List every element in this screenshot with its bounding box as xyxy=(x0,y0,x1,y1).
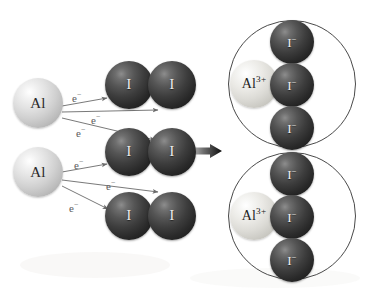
iodine-atom-1-2-label: I xyxy=(170,78,175,92)
iodine-atom-1-1: I xyxy=(105,61,153,109)
electron-label-4: e− xyxy=(74,160,83,171)
iodide-ion-2-1: I− xyxy=(270,152,314,196)
electron-charge-5: − xyxy=(111,178,115,187)
iodine-atom-2-1-label: I xyxy=(127,145,132,159)
iodide-ion-1-2-charge: − xyxy=(292,76,297,86)
aluminum-atom-2-label: Al xyxy=(30,165,45,180)
aluminum-ion-1-charge: 3+ xyxy=(256,74,266,84)
reaction-diagram: AlAl IIIIII e−e−e−e−e−e− Al3+I−I−I−Al3+I… xyxy=(0,0,379,292)
iodide-ion-1-1-label: I− xyxy=(287,36,297,49)
iodine-atom-2-2: I xyxy=(148,128,196,176)
iodide-ion-2-3-charge: − xyxy=(292,251,297,261)
iodide-ion-2-2-label: I− xyxy=(287,211,297,224)
iodide-ion-1-2: I− xyxy=(270,63,314,107)
iodide-ion-2-1-label: I− xyxy=(287,168,297,181)
electron-arrow-1 xyxy=(62,98,107,106)
iodide-ion-2-3-label: I− xyxy=(287,254,297,267)
electron-charge-4: − xyxy=(79,157,83,166)
iodide-ion-2-3: I− xyxy=(270,238,314,282)
electron-charge-1: − xyxy=(77,90,81,99)
electron-arrow-2 xyxy=(62,110,158,112)
electron-charge-6: − xyxy=(74,200,78,209)
iodine-atom-2-1: I xyxy=(105,128,153,176)
aluminum-ion-1-label: Al3+ xyxy=(242,77,267,91)
iodine-atom-2-2-label: I xyxy=(170,145,175,159)
iodine-atom-1-1-label: I xyxy=(127,78,132,92)
iodine-atom-3-1: I xyxy=(105,192,153,240)
electron-label-5: e− xyxy=(106,181,115,192)
iodine-atom-3-2-label: I xyxy=(170,209,175,223)
aluminum-ion-2-label: Al3+ xyxy=(242,209,267,223)
iodine-atom-3-1-label: I xyxy=(127,209,132,223)
iodide-ion-2-2-charge: − xyxy=(292,208,297,218)
iodine-atom-1-2: I xyxy=(148,61,196,109)
aluminum-atom-1: Al xyxy=(13,78,63,128)
electron-label-6: e− xyxy=(69,203,78,214)
aluminum-ion-2-charge: 3+ xyxy=(256,206,266,216)
electron-label-3: e− xyxy=(76,128,85,139)
iodide-ion-1-2-label: I− xyxy=(287,79,297,92)
electron-label-1: e− xyxy=(72,93,81,104)
iodide-ion-2-2: I− xyxy=(270,195,314,239)
iodide-ion-1-1-charge: − xyxy=(292,33,297,43)
iodide-ion-2-1-charge: − xyxy=(292,165,297,175)
aluminum-atom-2: Al xyxy=(13,147,63,197)
electron-label-2: e− xyxy=(91,115,100,126)
iodine-atom-3-2: I xyxy=(148,192,196,240)
iodide-ion-1-1: I− xyxy=(270,20,314,64)
electron-arrow-4 xyxy=(62,164,107,172)
iodide-ion-1-3: I− xyxy=(270,106,314,150)
aluminum-atom-1-label: Al xyxy=(30,96,45,111)
iodide-ion-1-3-charge: − xyxy=(292,119,297,129)
electron-charge-3: − xyxy=(81,125,85,134)
iodide-ion-1-3-label: I− xyxy=(287,122,297,135)
electron-charge-2: − xyxy=(96,112,100,121)
